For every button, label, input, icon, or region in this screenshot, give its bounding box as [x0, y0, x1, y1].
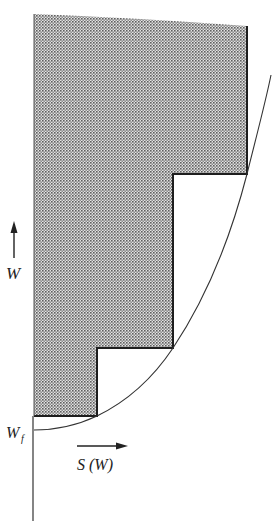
horizontal-axis-label: S (W) — [77, 456, 113, 474]
w-arrow-icon — [11, 221, 18, 258]
diagram-canvas: W W f S (W) — [0, 0, 274, 526]
baseline-label: W — [6, 424, 21, 441]
shaded-region — [34, 14, 247, 416]
vertical-axis-label: W — [6, 264, 22, 283]
baseline-subscript: f — [21, 433, 25, 444]
s-arrow-icon — [77, 443, 128, 450]
